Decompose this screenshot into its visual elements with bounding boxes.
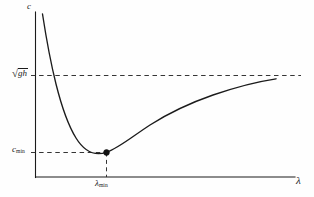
x-axis-label: λ	[296, 175, 301, 186]
c-min-label: cmin	[12, 145, 25, 155]
phase-speed-curve	[43, 14, 277, 154]
c-min-label-subscript: min	[16, 148, 25, 154]
lambda-min-label-subscript: min	[99, 182, 108, 188]
wave-speed-vs-wavelength-figure: c λ √gh cmin λmin	[0, 0, 314, 197]
plot-canvas	[0, 0, 314, 197]
y-axis-label: c	[27, 2, 31, 11]
minimum-point-marker	[104, 150, 110, 156]
radicand-text: gh	[18, 68, 28, 78]
lambda-min-label: λmin	[95, 179, 108, 189]
asymptote-sqrt-gh-label: √gh	[11, 67, 28, 78]
sqrt-composite-glyph: √gh	[11, 67, 28, 78]
